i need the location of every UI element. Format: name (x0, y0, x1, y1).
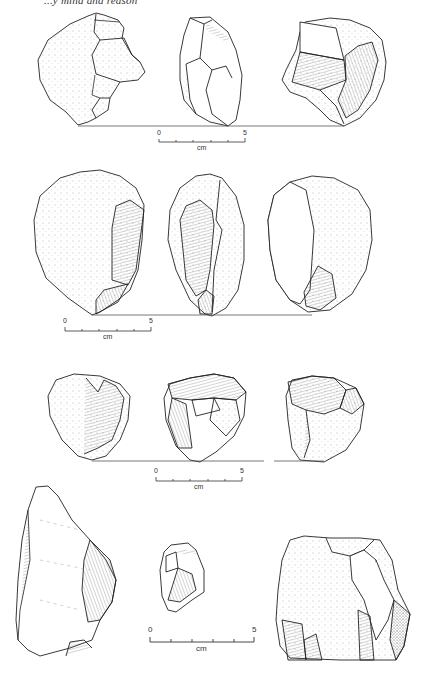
scale-start-label: 0 (63, 317, 67, 324)
scale-end-label: 5 (149, 317, 153, 324)
artifact-2a (34, 170, 144, 315)
artifact-4a (16, 486, 116, 656)
scale-start-label: 0 (157, 129, 161, 136)
artifact-2c (268, 176, 372, 312)
artifact-2b (168, 174, 244, 316)
scale-bar-row-2: 0 5 cm (63, 322, 153, 346)
scale-start-label: 0 (154, 467, 158, 474)
scale-start-label: 0 (148, 625, 152, 634)
scale-unit-label: cm (197, 144, 206, 151)
scale-bar-row-4: 0 5 cm (148, 631, 258, 657)
artifact-1b (180, 17, 242, 126)
artifact-3b (164, 374, 246, 462)
artifact-1a (38, 13, 145, 125)
artifact-3a (48, 374, 130, 460)
scale-end-label: 5 (243, 129, 247, 136)
artifact-3c (286, 376, 364, 462)
scale-unit-label: cm (194, 483, 203, 490)
scale-unit-label: cm (196, 644, 207, 653)
artifact-4c (276, 536, 410, 660)
scale-unit-label: cm (103, 333, 112, 340)
scale-bar-row-1: 0 5 cm (157, 133, 247, 157)
artifact-4b (160, 543, 204, 612)
scale-end-label: 5 (252, 625, 256, 634)
artifact-1c (282, 18, 386, 126)
scale-bar-row-3: 0 5 cm (154, 472, 244, 496)
scale-end-label: 5 (240, 467, 244, 474)
